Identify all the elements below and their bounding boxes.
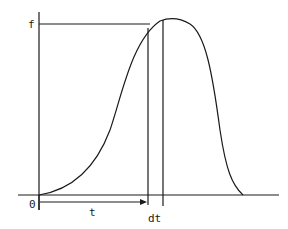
distribution-curve [39, 19, 243, 195]
dt-label: dt [148, 212, 161, 225]
t-arrow-head [140, 199, 147, 205]
origin-label: 0 [29, 198, 36, 211]
diagram-canvas: f 0 t dt [0, 0, 288, 229]
f-label: f [28, 18, 35, 31]
t-label: t [89, 206, 96, 219]
